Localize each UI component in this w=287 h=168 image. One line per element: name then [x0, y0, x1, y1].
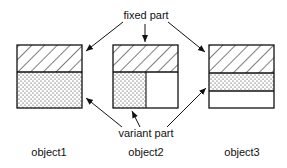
object3-box — [209, 45, 274, 108]
fixed-part-label: fixed part — [123, 10, 168, 21]
object2-fixed-part — [113, 45, 178, 72]
object1-box — [17, 45, 82, 108]
variant-part-label: variant part — [118, 128, 173, 139]
object3-variant-part — [209, 73, 274, 91]
object1-variant-part — [17, 72, 82, 108]
object2-box — [113, 45, 178, 108]
object1-fixed-part — [17, 45, 82, 72]
object1-label: object1 — [31, 147, 66, 158]
object3-label: object3 — [224, 147, 259, 158]
object2-label: object2 — [128, 147, 163, 158]
diagram-canvas — [0, 0, 287, 168]
arrow-icon — [132, 111, 140, 127]
object3-fixed-part — [209, 45, 274, 73]
object2-variant-part — [113, 72, 146, 108]
